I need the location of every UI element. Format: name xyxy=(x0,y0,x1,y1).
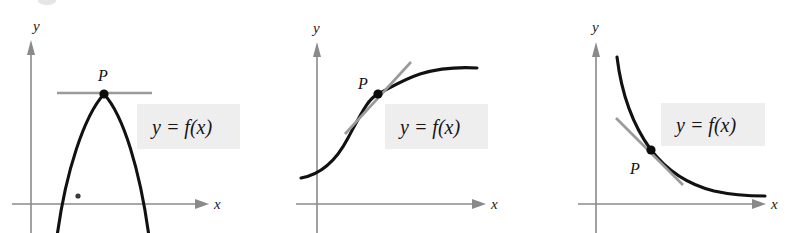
x-axis-label-left: x xyxy=(213,196,221,212)
tangent-lines-figure: y x y = f(x) P xyxy=(0,0,787,233)
x-axis-right xyxy=(578,199,766,209)
curve-left xyxy=(58,94,149,233)
stray-dot-left xyxy=(75,193,80,198)
x-axis-left xyxy=(12,199,209,209)
point-p-label-middle: P xyxy=(357,75,368,92)
point-p-label-right: P xyxy=(629,160,640,177)
equation-label-middle: y = f(x) xyxy=(398,116,460,139)
x-axis-label-right: x xyxy=(770,196,778,212)
point-p-middle xyxy=(373,89,382,98)
scan-artifact xyxy=(38,0,56,5)
point-p-label-left: P xyxy=(97,67,108,84)
panel-left: y x y = f(x) P xyxy=(12,18,240,233)
panel-right: y x y = f(x) P xyxy=(578,19,778,233)
y-axis-label-right: y xyxy=(590,19,599,35)
x-axis-label-middle: x xyxy=(490,196,498,212)
point-p-left xyxy=(99,89,108,98)
equation-label-left: y = f(x) xyxy=(150,116,212,139)
panel-middle: y x y = f(x) P xyxy=(296,20,498,233)
x-axis-middle xyxy=(296,199,486,209)
point-p-right xyxy=(646,145,655,154)
y-axis-label-left: y xyxy=(31,18,40,34)
figure-container: y x y = f(x) P xyxy=(0,0,787,233)
equation-label-right: y = f(x) xyxy=(674,114,736,137)
y-axis-label-middle: y xyxy=(311,20,320,36)
